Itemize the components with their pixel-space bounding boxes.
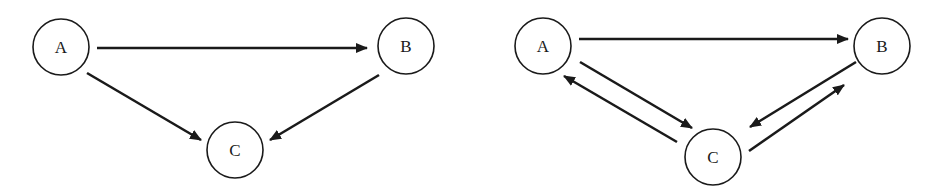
node-c: C bbox=[685, 129, 741, 185]
diagram-canvas: ABCABC bbox=[0, 0, 939, 196]
graph-right: ABC bbox=[515, 18, 910, 185]
node-b: B bbox=[378, 18, 434, 74]
node-label: B bbox=[400, 37, 411, 56]
edge-b-to-c-arrow-icon bbox=[750, 62, 856, 127]
node-label: B bbox=[876, 37, 887, 56]
node-a: A bbox=[515, 18, 571, 74]
edge-b-to-c-arrow-icon bbox=[270, 75, 379, 140]
node-label: C bbox=[707, 148, 718, 167]
edge-a-to-c-arrow-icon bbox=[87, 73, 201, 140]
graph-left: ABC bbox=[33, 18, 434, 178]
node-label: A bbox=[55, 38, 68, 57]
node-label: A bbox=[537, 37, 550, 56]
node-c: C bbox=[207, 122, 263, 178]
node-a: A bbox=[33, 19, 89, 75]
node-label: C bbox=[229, 141, 240, 160]
node-b: B bbox=[854, 18, 910, 74]
